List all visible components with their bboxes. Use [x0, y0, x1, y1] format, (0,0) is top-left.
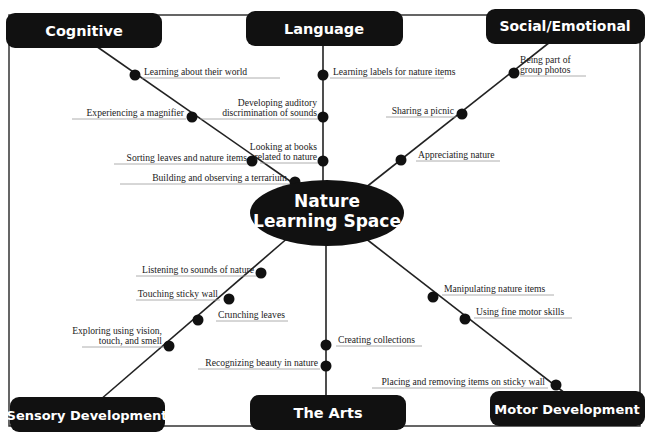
node-sensory-label: Sensory Development — [7, 408, 168, 423]
leaf-dot — [224, 294, 235, 305]
leaf-dot — [321, 361, 332, 372]
leaf-dot — [321, 340, 332, 351]
leaf-label: Listening to sounds of nature — [142, 264, 254, 275]
leaf-label: Appreciating nature — [418, 149, 494, 160]
leaf-dot — [318, 156, 329, 167]
node-arts-label: The Arts — [293, 405, 362, 421]
node-the-arts[interactable]: The Arts — [250, 395, 406, 430]
leaf-dot — [551, 380, 562, 391]
leaf-dot — [509, 68, 520, 79]
center-title-line2: Learning Space — [253, 211, 401, 231]
leaf-label: Recognizing beauty in nature — [205, 357, 318, 368]
leaf-label: Crunching leaves — [218, 309, 285, 320]
leaf-label: related to nature — [255, 151, 317, 162]
leaf-label: group photos — [520, 64, 571, 75]
leaf-label: Learning labels for nature items — [333, 66, 456, 77]
leaf-dot — [130, 70, 141, 81]
leaf-dot — [396, 155, 407, 166]
leaf-item-cognitive-1[interactable]: Learning about their world — [130, 66, 281, 81]
leaf-label: discrimination of sounds — [222, 107, 317, 118]
leaf-dot — [460, 314, 471, 325]
leaf-item-arts-2[interactable]: Recognizing beauty in nature — [198, 357, 332, 372]
leaf-label: touch, and smell — [99, 335, 162, 346]
leaf-item-motor-3[interactable]: Placing and removing items on sticky wal… — [372, 376, 562, 391]
leaf-label: Experiencing a magnifier — [87, 107, 185, 118]
leaf-dot — [428, 292, 439, 303]
leaf-dot — [256, 268, 267, 279]
leaf-item-language-1[interactable]: Learning labels for nature items — [318, 66, 456, 81]
leaf-label: Learning about their world — [144, 66, 247, 77]
leaf-item-cognitive-4[interactable]: Building and observing a terrarium — [120, 172, 301, 188]
leaf-dot — [318, 70, 329, 81]
center-title-line1: Nature — [294, 191, 360, 211]
leaf-item-cognitive-3[interactable]: Sorting leaves and nature items — [114, 152, 258, 167]
node-motor-development[interactable]: Motor Development — [490, 391, 645, 426]
leaf-label: Sharing a picnic — [392, 105, 454, 116]
node-language[interactable]: Language — [246, 11, 403, 46]
leaf-item-cognitive-2[interactable]: Experiencing a magnifier — [72, 107, 198, 123]
leaf-label: Touching sticky wall — [138, 288, 219, 299]
leaf-item-motor-1[interactable]: Manipulating nature items — [428, 283, 555, 303]
leaf-item-sensory-1[interactable]: Listening to sounds of nature — [136, 264, 267, 279]
leaf-item-language-2[interactable]: Developing auditorydiscrimination of sou… — [200, 97, 329, 123]
node-cognitive-label: Cognitive — [45, 23, 123, 39]
leaf-item-sensory-3[interactable]: Crunching leaves — [193, 309, 289, 326]
mind-map: Learning about their worldExperiencing a… — [0, 0, 649, 433]
leaf-dot — [193, 315, 204, 326]
leaf-item-social-1[interactable]: Being part ofgroup photos — [509, 54, 587, 79]
node-language-label: Language — [284, 21, 364, 37]
leaf-label: Building and observing a terrarium — [152, 172, 287, 183]
leaf-label: Placing and removing items on sticky wal… — [381, 376, 545, 387]
node-sensory-development[interactable]: Sensory Development — [7, 397, 168, 432]
leaf-item-motor-2[interactable]: Using fine motor skills — [460, 306, 573, 325]
leaf-label: Using fine motor skills — [476, 306, 564, 317]
leaf-label: Manipulating nature items — [444, 283, 546, 294]
node-cognitive[interactable]: Cognitive — [6, 13, 162, 48]
leaf-dot — [318, 112, 329, 123]
leaf-dot — [457, 109, 468, 120]
center-node[interactable]: Nature Learning Space — [250, 180, 404, 246]
leaf-dot — [187, 112, 198, 123]
leaf-item-arts-1[interactable]: Creating collections — [321, 334, 423, 351]
node-motor-label: Motor Development — [494, 402, 639, 417]
leaf-label: Creating collections — [338, 334, 415, 345]
leaf-label: Sorting leaves and nature items — [127, 152, 248, 163]
node-social-emotional[interactable]: Social/Emotional — [486, 9, 645, 44]
leaf-item-language-3[interactable]: Looking at booksrelated to nature — [250, 141, 329, 167]
leaf-dot — [164, 341, 175, 352]
leaf-item-social-2[interactable]: Sharing a picnic — [386, 105, 468, 120]
leaf-item-sensory-4[interactable]: Exploring using vision,touch, and smell — [72, 325, 174, 352]
node-social-label: Social/Emotional — [499, 18, 630, 34]
